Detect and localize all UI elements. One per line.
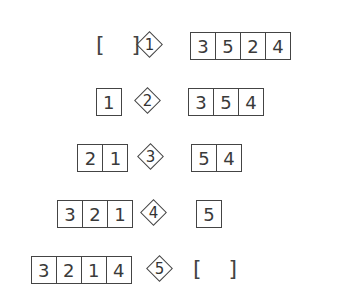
step-diamond-icon: 4 — [142, 201, 166, 225]
array-cell: 1 — [108, 201, 132, 227]
array-cell: 4 — [107, 257, 131, 283]
array-cell: 3 — [58, 201, 83, 227]
array-cell: 5 — [192, 145, 217, 171]
output-array: 3214 — [31, 256, 132, 284]
input-array: 54 — [191, 144, 242, 172]
array-cell: 4 — [239, 89, 263, 115]
array-cell: 4 — [266, 33, 290, 59]
array-cell: 2 — [57, 257, 82, 283]
step-row: 32145[ ] — [0, 252, 339, 286]
array-cell: 5 — [216, 33, 241, 59]
step-diamond-icon: 5 — [148, 257, 172, 281]
step-number: 1 — [138, 33, 161, 57]
array-cell: 1 — [97, 89, 121, 115]
output-array: 21 — [77, 144, 128, 172]
array-cell: 2 — [83, 201, 108, 227]
step-number: 5 — [148, 257, 171, 281]
step-diamond-icon: 2 — [136, 89, 160, 113]
step-diamond-icon: 3 — [139, 145, 163, 169]
array-cell: 1 — [82, 257, 107, 283]
input-array-empty: [ ] — [193, 256, 247, 281]
array-cell: 1 — [103, 145, 127, 171]
input-array: 3524 — [190, 32, 291, 60]
array-cell: 5 — [197, 201, 221, 227]
step-row: 21354 — [0, 140, 339, 174]
step-row: 32145 — [0, 196, 339, 230]
array-cell: 3 — [189, 89, 214, 115]
array-cell: 2 — [241, 33, 266, 59]
input-array: 354 — [188, 88, 264, 116]
input-array: 5 — [196, 200, 222, 228]
array-cell: 5 — [214, 89, 239, 115]
array-cell: 3 — [32, 257, 57, 283]
step-row: 12354 — [0, 84, 339, 118]
array-cell: 4 — [217, 145, 241, 171]
output-array: 1 — [96, 88, 122, 116]
step-diamond-icon: 1 — [138, 33, 162, 57]
output-array: 321 — [57, 200, 133, 228]
array-cell: 3 — [191, 33, 216, 59]
step-number: 3 — [139, 145, 162, 169]
array-cell: 2 — [78, 145, 103, 171]
step-number: 2 — [136, 89, 159, 113]
step-number: 4 — [142, 201, 165, 225]
step-row: [ ]13524 — [0, 28, 339, 62]
